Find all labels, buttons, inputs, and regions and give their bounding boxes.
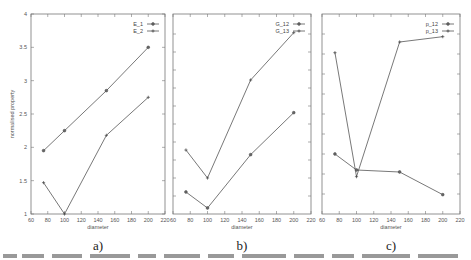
data-point-marker	[398, 40, 401, 43]
x-tick-label: 120	[220, 217, 229, 223]
x-tick-label: 100	[203, 217, 212, 223]
data-point-marker	[151, 29, 154, 32]
x-tick-label: 200	[289, 217, 298, 223]
x-tick-label: 80	[336, 217, 342, 223]
data-point-marker	[398, 171, 401, 174]
plot-frame	[31, 14, 165, 214]
data-point-marker	[298, 23, 301, 26]
x-tick-label: 180	[421, 217, 430, 223]
x-axis-title: diameter	[87, 224, 109, 230]
data-point-marker	[446, 29, 449, 32]
x-tick-label: 220	[306, 217, 315, 223]
data-point-marker	[152, 23, 155, 26]
x-tick-label: 180	[272, 217, 281, 223]
y-tick-label: 1.5	[19, 178, 27, 184]
x-tick-label: 60	[28, 217, 34, 223]
y-axis-title: normalised property	[9, 89, 15, 138]
series-line-g_12	[186, 113, 294, 208]
series-line-e_2	[44, 97, 149, 214]
data-point-marker	[333, 51, 336, 54]
data-point-marker	[249, 153, 252, 156]
x-tick-label: 60	[170, 217, 176, 223]
data-point-marker	[147, 46, 150, 49]
series-line-e_1	[44, 47, 149, 150]
x-tick-label: 200	[438, 217, 447, 223]
x-axis-title: diameter	[380, 224, 402, 230]
x-tick-label: 160	[255, 217, 264, 223]
plot-frame	[322, 14, 460, 214]
x-tick-label: 100	[352, 217, 361, 223]
x-tick-label: 60	[319, 217, 325, 223]
data-point-marker	[185, 191, 188, 194]
x-tick-label: 160	[404, 217, 413, 223]
series-line-p_12	[335, 154, 443, 195]
x-tick-label: 140	[237, 217, 246, 223]
data-point-marker	[297, 29, 300, 32]
chart-panel-a: 608010012014016018020022011.522.533.54di…	[9, 11, 170, 253]
data-point-marker	[441, 193, 444, 196]
y-tick-label: 3.5	[19, 44, 27, 50]
y-tick-label: 4	[24, 11, 27, 17]
x-tick-label: 120	[77, 217, 86, 223]
figure-three-panel-line-charts: 608010012014016018020022011.522.533.54di…	[0, 0, 471, 260]
data-point-marker	[447, 23, 450, 26]
series-line-p_13	[335, 37, 443, 177]
x-tick-label: 220	[455, 217, 464, 223]
chart-panel-b: 6080100120140160180200220diameterb)G_12G…	[170, 14, 316, 253]
series-line-g_13	[186, 33, 294, 178]
caption-cutoff	[0, 251, 471, 260]
data-point-marker	[105, 89, 108, 92]
y-tick-label: 2.5	[19, 111, 27, 117]
plot-frame	[173, 14, 311, 214]
data-point-marker	[355, 175, 358, 178]
data-point-marker	[292, 111, 295, 114]
legend-label: p_12	[426, 21, 438, 27]
x-tick-label: 80	[45, 217, 51, 223]
data-point-marker	[63, 129, 66, 132]
x-tick-label: 220	[160, 217, 169, 223]
legend-label: E_2	[133, 28, 143, 34]
data-point-marker	[206, 207, 209, 210]
data-point-marker	[334, 153, 337, 156]
legend-label: E_1	[133, 21, 143, 27]
y-tick-label: 3	[24, 78, 27, 84]
x-tick-label: 140	[93, 217, 102, 223]
x-axis-title: diameter	[231, 224, 253, 230]
legend-label: p_13	[426, 28, 438, 34]
legend-label: G_13	[276, 28, 289, 34]
data-point-marker	[441, 35, 444, 38]
x-tick-label: 80	[187, 217, 193, 223]
x-tick-label: 200	[144, 217, 153, 223]
x-tick-label: 160	[110, 217, 119, 223]
x-tick-label: 100	[60, 217, 69, 223]
data-point-marker	[42, 149, 45, 152]
x-tick-label: 120	[369, 217, 378, 223]
legend-label: G_12	[276, 21, 289, 27]
y-tick-label: 2	[24, 144, 27, 150]
x-tick-label: 140	[386, 217, 395, 223]
chart-panel-c: 6080100120140160180200220diameterc)p_12p…	[319, 14, 465, 253]
x-tick-label: 180	[127, 217, 136, 223]
y-tick-label: 1	[24, 211, 27, 217]
